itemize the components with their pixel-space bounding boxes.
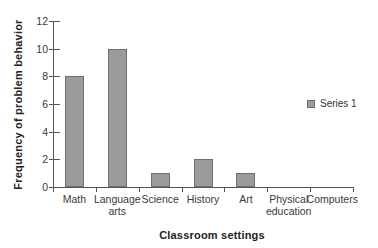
y-tick-label: 0 — [22, 181, 48, 193]
x-tick-mark — [53, 187, 54, 192]
x-tick-mark — [310, 187, 311, 192]
legend-marker-icon — [307, 100, 315, 108]
y-tick-label: 6 — [22, 98, 48, 110]
y-tick-label: 2 — [22, 153, 48, 165]
y-tick-mark — [49, 49, 61, 50]
category-label-computers: Computers — [307, 193, 357, 205]
y-tick-mark — [49, 104, 61, 105]
bar-math — [65, 76, 84, 187]
y-tick-label: 8 — [22, 70, 48, 82]
y-tick-label: 12 — [22, 15, 48, 27]
bar-chart: Frequency of problem behavior Series 1 C… — [0, 0, 378, 248]
y-tick-mark — [49, 187, 61, 188]
legend-series-label: Series 1 — [320, 98, 357, 109]
bar-history — [194, 159, 213, 187]
x-tick-mark — [182, 187, 183, 192]
y-tick-mark — [49, 76, 61, 77]
x-tick-mark — [96, 187, 97, 192]
y-tick-mark — [49, 21, 61, 22]
x-tick-mark — [224, 187, 225, 192]
y-tick-mark — [49, 159, 61, 160]
legend: Series 1 — [307, 98, 357, 109]
x-tick-mark — [267, 187, 268, 192]
bar-science — [151, 173, 170, 187]
x-tick-mark — [353, 187, 354, 192]
x-axis-title: Classroom settings — [112, 229, 312, 241]
y-tick-mark — [49, 132, 61, 133]
y-tick-label: 10 — [22, 43, 48, 55]
x-tick-mark — [139, 187, 140, 192]
y-tick-label: 4 — [22, 126, 48, 138]
bar-art — [236, 173, 255, 187]
bar-language-arts — [108, 49, 127, 187]
x-axis-line — [53, 187, 354, 188]
